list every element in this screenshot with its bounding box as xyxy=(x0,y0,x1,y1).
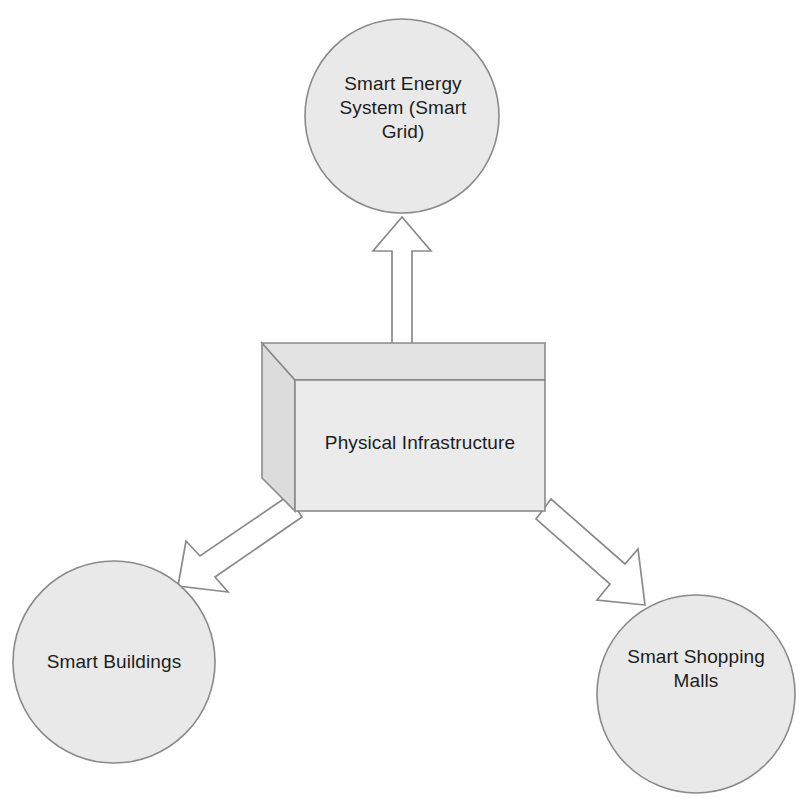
diagram-canvas: Smart Energy System (Smart Grid) Physica… xyxy=(0,0,806,798)
cube-front-face xyxy=(295,380,545,511)
node-smart-buildings[interactable] xyxy=(13,561,215,763)
connector-infra-to-buildings-arrow[interactable] xyxy=(178,496,302,592)
node-smart-energy-system[interactable] xyxy=(305,19,499,213)
connector-infra-to-malls-arrow[interactable] xyxy=(536,499,645,605)
diagram-graphics xyxy=(0,0,806,798)
cube-top-face xyxy=(262,343,545,380)
node-smart-shopping-malls[interactable] xyxy=(597,595,795,793)
connector-infra-to-energy-arrow[interactable] xyxy=(373,217,431,345)
node-physical-infrastructure[interactable] xyxy=(262,343,545,511)
